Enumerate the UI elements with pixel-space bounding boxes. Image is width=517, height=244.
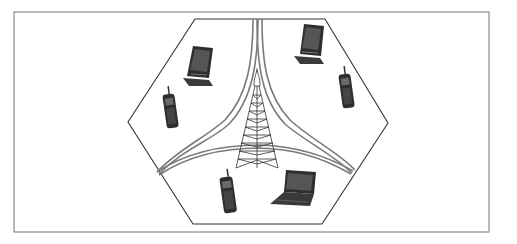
cellular-cell-diagram [0, 0, 517, 244]
